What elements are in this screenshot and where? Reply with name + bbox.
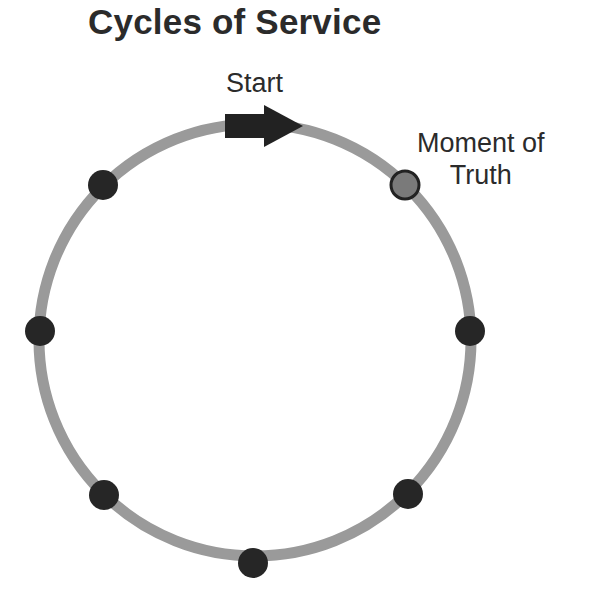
touchpoint-dot-top-left [88, 170, 118, 200]
touchpoint-dot-left [25, 316, 55, 346]
start-arrow-icon [225, 105, 303, 147]
touchpoint-dot-bottom-right [393, 479, 423, 509]
start-label: Start [226, 68, 283, 100]
touchpoint-dot-right [455, 316, 485, 346]
touchpoint-dot-bottom [238, 548, 268, 578]
moment-of-truth-label: Moment of Truth [417, 128, 545, 192]
cycle-diagram [0, 0, 608, 598]
moment-of-truth-label-line1: Moment of [417, 128, 545, 160]
touchpoint-dot-bottom-left [89, 480, 119, 510]
moment-of-truth-label-line2: Truth [417, 160, 545, 192]
moment-of-truth-dot [391, 171, 419, 199]
